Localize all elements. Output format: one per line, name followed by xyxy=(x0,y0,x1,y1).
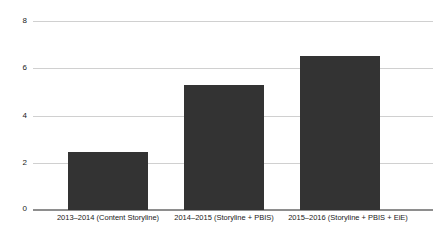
bar-series-0[interactable] xyxy=(68,152,148,210)
bar-chart: 8 6 4 2 0 2013–2014 (Content Storyline) … xyxy=(0,0,435,246)
bar-series-2[interactable] xyxy=(300,56,380,210)
y-tick-label-4: 4 xyxy=(23,112,27,120)
x-tick-label-2: 2015–2016 (Storyline + PBIS + EiE) xyxy=(274,213,422,223)
bar-series-1[interactable] xyxy=(184,85,264,210)
y-tick-label-6: 6 xyxy=(23,64,27,72)
y-tick-label-8: 8 xyxy=(23,17,27,25)
x-tick-label-1: 2014–2015 (Storyline + PBIS) xyxy=(162,213,286,223)
y-tick-label-0: 0 xyxy=(23,205,27,213)
plot-area: 8 6 4 2 0 xyxy=(33,21,433,210)
y-tick-label-2: 2 xyxy=(23,159,27,167)
bars-layer xyxy=(33,21,433,210)
x-axis-labels: 2013–2014 (Content Storyline) 2014–2015 … xyxy=(33,213,433,246)
x-tick-label-0: 2013–2014 (Content Storyline) xyxy=(46,213,170,223)
